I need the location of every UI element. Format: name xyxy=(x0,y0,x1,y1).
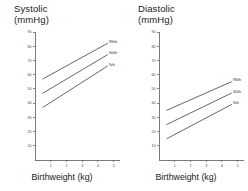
y-tick-label: 20 xyxy=(152,130,156,134)
x-tick-group-diastolic: 12345 xyxy=(174,160,239,168)
y-tick-label: 60 xyxy=(152,73,156,77)
y-tick-label: 90 xyxy=(152,30,156,34)
x-axis-title-diastolic: Birthweight (kg) xyxy=(124,172,248,182)
y-tick-label: 30 xyxy=(28,116,32,120)
percentile-label-50th: 50th xyxy=(109,50,118,55)
x-tick-label: 5 xyxy=(113,164,115,168)
y-tick-group-diastolic: 908070605040302010 xyxy=(152,30,160,148)
y-tick-label: 70 xyxy=(152,59,156,63)
y-tick-label: 90 xyxy=(28,30,32,34)
percentile-label-5th: 5th xyxy=(233,100,239,105)
x-tick-label: 4 xyxy=(97,164,99,168)
x-tick-label: 1 xyxy=(50,164,52,168)
percentile-label-50th: 50th xyxy=(233,89,242,94)
x-tick-group-systolic: 12345 xyxy=(50,160,115,168)
chart-panel-systolic: Systolic(mmHg) 908070605040302010 12345 … xyxy=(0,0,124,191)
y-tick-label: 80 xyxy=(28,45,32,49)
series-group-diastolic: 95th50th5th xyxy=(167,77,242,138)
y-tick-label: 80 xyxy=(152,45,156,49)
x-tick-label: 4 xyxy=(221,164,223,168)
percentile-line-50th xyxy=(167,93,232,124)
y-tick-label: 40 xyxy=(28,101,32,105)
plot-area-systolic: 908070605040302010 12345 95th50th5th xyxy=(0,0,124,191)
series-group-systolic: 95th50th5th xyxy=(43,39,118,108)
y-tick-label: 70 xyxy=(28,59,32,63)
y-tick-label: 10 xyxy=(28,144,32,148)
y-tick-label: 30 xyxy=(152,116,156,120)
y-tick-group-systolic: 908070605040302010 xyxy=(28,30,36,148)
percentile-label-95th: 95th xyxy=(109,39,118,44)
plot-area-diastolic: 908070605040302010 12345 95th50th5th xyxy=(124,0,248,191)
x-axis-title-systolic: Birthweight (kg) xyxy=(0,172,124,182)
percentile-line-95th xyxy=(167,82,232,110)
x-tick-label: 5 xyxy=(237,164,239,168)
y-tick-label: 60 xyxy=(28,73,32,77)
percentile-label-5th: 5th xyxy=(109,62,115,67)
x-tick-label: 1 xyxy=(174,164,176,168)
percentile-label-95th: 95th xyxy=(233,77,242,82)
x-tick-label: 3 xyxy=(81,164,83,168)
percentile-line-5th xyxy=(43,66,108,107)
y-tick-label: 50 xyxy=(152,87,156,91)
y-tick-label: 10 xyxy=(152,144,156,148)
chart-panel-diastolic: Diastolic(mmHg) 908070605040302010 12345… xyxy=(124,0,248,191)
x-tick-label: 2 xyxy=(65,164,67,168)
y-tick-label: 20 xyxy=(28,130,32,134)
y-tick-label: 40 xyxy=(152,101,156,105)
blood-pressure-percentile-figure: Systolic(mmHg) 908070605040302010 12345 … xyxy=(0,0,248,191)
y-tick-label: 50 xyxy=(28,87,32,91)
x-tick-label: 3 xyxy=(205,164,207,168)
x-tick-label: 2 xyxy=(189,164,191,168)
percentile-line-5th xyxy=(167,105,232,139)
